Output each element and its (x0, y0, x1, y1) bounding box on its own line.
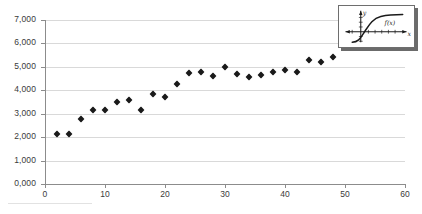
data-point (329, 54, 336, 61)
data-point (293, 68, 300, 75)
x-axis-tick-label: 0 (33, 189, 57, 199)
x-axis-tick (345, 184, 346, 188)
data-point (137, 107, 144, 114)
x-axis-tick (285, 184, 286, 188)
gridline (45, 90, 405, 91)
data-point (125, 96, 132, 103)
data-point (221, 63, 228, 70)
y-axis-tick-label: 1,000 (0, 155, 36, 165)
x-axis-tick-label: 60 (393, 189, 417, 199)
inset-x-axis-label: x (407, 30, 411, 37)
data-point (185, 69, 192, 76)
data-point (317, 59, 324, 66)
y-axis-tick (41, 20, 45, 21)
y-axis-tick-label: 2,000 (0, 131, 36, 141)
x-axis-tick (165, 184, 166, 188)
y-axis-tick-label: 5,000 (0, 61, 36, 71)
y-axis-tick (41, 114, 45, 115)
data-point (305, 56, 312, 63)
gridline (45, 114, 405, 115)
data-point (257, 72, 264, 79)
data-point (269, 68, 276, 75)
x-axis-tick-label: 20 (153, 189, 177, 199)
x-axis-tick-label: 10 (93, 189, 117, 199)
data-point (161, 94, 168, 101)
x-axis-tick-label: 50 (333, 189, 357, 199)
data-point (113, 98, 120, 105)
data-point (149, 90, 156, 97)
x-axis-tick (45, 184, 46, 188)
y-axis-line (45, 20, 46, 185)
y-axis-tick (41, 137, 45, 138)
scatter-chart: 0,0001,0002,0003,0004,0005,0006,0007,000… (0, 0, 422, 214)
x-axis-tick-label: 30 (213, 189, 237, 199)
y-axis-tick (41, 90, 45, 91)
x-axis-tick-label: 40 (273, 189, 297, 199)
y-axis-tick-label: 3,000 (0, 108, 36, 118)
y-axis-tick-label: 4,000 (0, 84, 36, 94)
y-axis-tick (41, 43, 45, 44)
x-axis-tick (225, 184, 226, 188)
function-graph-thumbnail: y x f(x) (338, 5, 415, 48)
data-point (197, 68, 204, 75)
data-point (281, 67, 288, 74)
data-point (209, 73, 216, 80)
inset-curve-label: f(x) (384, 19, 396, 27)
y-axis-tick-label: 7,000 (0, 14, 36, 24)
y-axis-tick-label: 0,000 (0, 178, 36, 188)
data-point (245, 74, 252, 81)
y-axis-tick-label: 6,000 (0, 37, 36, 47)
data-point (65, 130, 72, 137)
data-point (77, 115, 84, 122)
data-point (101, 107, 108, 114)
gridline (45, 137, 405, 138)
gridline (45, 161, 405, 162)
y-axis-tick (41, 161, 45, 162)
bottom-divider (8, 203, 92, 204)
x-axis-tick (405, 184, 406, 188)
y-axis-tick (41, 67, 45, 68)
data-point (89, 107, 96, 114)
data-point (233, 70, 240, 77)
x-axis-tick (105, 184, 106, 188)
inset-y-axis-label: y (362, 9, 367, 17)
data-point (53, 130, 60, 137)
data-point (173, 81, 180, 88)
